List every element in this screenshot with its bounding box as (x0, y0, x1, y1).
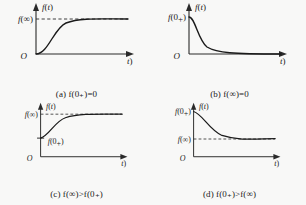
panel-c-plot: f(t) t) O f(∞) f(0+) (0, 100, 153, 178)
x-axis-label: t) (280, 56, 286, 66)
x-axis-label: t) (274, 159, 279, 168)
response-curves-figure: f(t) t) O f(∞) (a) f(0₊)=0 f(t) t) O f(0… (0, 0, 306, 205)
panel-d: f(t) t) O f(0+) f(∞) (d) f(0₊)>f(∞) (153, 100, 306, 202)
panel-a: f(t) t) O f(∞) (a) f(0₊)=0 (0, 0, 153, 102)
asymptote-label: f(∞) (178, 135, 192, 144)
y-axis-label: f(t) (199, 102, 209, 111)
y-axis-arrowhead (191, 103, 196, 110)
initial-value-label: f(0+) (168, 12, 186, 24)
panel-d-plot: f(t) t) O f(0+) f(∞) (153, 100, 306, 178)
y-axis-arrowhead (38, 103, 43, 110)
y-axis-label: f(t) (42, 2, 53, 12)
origin-label: O (27, 154, 33, 163)
panel-b-caption: (b) f(∞)=0 (153, 89, 306, 99)
initial-value-label: f(0+) (48, 137, 64, 147)
panel-b: f(t) t) O f(0+) (b) f(∞)=0 (153, 0, 306, 102)
response-curve (189, 17, 281, 54)
initial-value-label: f(0+) (175, 107, 191, 117)
x-axis-label: t) (127, 56, 133, 66)
panel-b-plot: f(t) t) O f(0+) (153, 0, 306, 78)
panel-d-caption: (d) f(0₊)>f(∞) (153, 189, 306, 199)
response-curve (41, 114, 123, 138)
origin-label: O (21, 51, 28, 61)
asymptote-label: f(∞) (18, 14, 33, 24)
y-axis-label: f(t) (195, 2, 206, 12)
x-axis-label: t) (121, 159, 126, 168)
y-axis-arrowhead (186, 3, 192, 11)
panel-a-plot: f(t) t) O f(∞) (0, 0, 153, 78)
origin-label: O (174, 51, 181, 61)
panel-c: f(t) t) O f(∞) f(0+) (c) f(∞)>f(0₊) (0, 100, 153, 202)
asymptote-label: f(∞) (25, 110, 39, 119)
response-curve (36, 19, 128, 54)
origin-label: O (180, 154, 186, 163)
panel-a-caption: (a) f(0₊)=0 (0, 89, 153, 99)
panel-c-caption: (c) f(∞)>f(0₊) (0, 189, 153, 199)
y-axis-arrowhead (33, 3, 39, 11)
response-curve (194, 112, 276, 140)
y-axis-label: f(t) (46, 102, 56, 111)
